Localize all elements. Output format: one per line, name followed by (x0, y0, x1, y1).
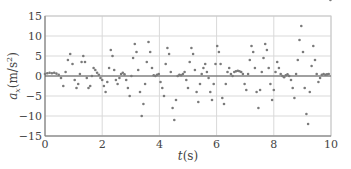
data-point (259, 89, 262, 92)
data-point (64, 71, 67, 74)
data-point (309, 91, 312, 94)
data-point (307, 123, 310, 126)
data-point (82, 55, 85, 58)
data-point (77, 83, 80, 86)
data-point (249, 59, 252, 62)
data-point (173, 119, 176, 122)
data-point (231, 75, 234, 78)
data-point (245, 89, 248, 92)
data-point (267, 67, 270, 70)
data-point (171, 107, 174, 110)
data-point (116, 83, 119, 86)
data-point (140, 115, 143, 118)
data-point (327, 73, 330, 76)
data-point (111, 55, 114, 58)
data-point (86, 77, 89, 80)
data-point (130, 75, 133, 78)
data-point (274, 71, 277, 74)
data-point (310, 65, 313, 68)
data-point (146, 61, 149, 64)
data-point (108, 67, 111, 70)
data-point (291, 87, 294, 90)
data-point (190, 47, 193, 50)
data-point (214, 63, 217, 66)
data-point (195, 91, 198, 94)
data-point (110, 49, 113, 52)
data-point (262, 57, 265, 60)
data-point (221, 97, 224, 100)
x-tick-label: 2 (99, 138, 106, 151)
x-tick-label: 0 (42, 138, 49, 151)
data-point (164, 63, 167, 66)
data-point (87, 87, 90, 90)
data-point (104, 91, 107, 94)
data-point (170, 71, 173, 74)
data-point (103, 85, 106, 88)
data-point (225, 83, 228, 86)
y-axis-label: ax(m/s2) (5, 52, 22, 100)
data-point (182, 73, 185, 76)
data-point (188, 61, 191, 64)
data-point (269, 83, 272, 86)
data-point (67, 59, 70, 62)
data-point (247, 73, 250, 76)
data-point (69, 53, 72, 56)
data-point (194, 69, 197, 72)
y-tick-label: 5 (35, 50, 42, 63)
data-point (278, 67, 281, 70)
data-point (113, 69, 116, 72)
data-point (46, 72, 49, 75)
data-point (297, 59, 300, 62)
data-point (317, 81, 320, 84)
data-point (144, 83, 147, 86)
data-point (166, 47, 169, 50)
data-point (89, 85, 92, 88)
data-point (187, 87, 190, 90)
data-point (163, 95, 166, 98)
data-point (128, 95, 131, 98)
data-point (303, 87, 306, 90)
data-point (183, 71, 186, 74)
data-point (84, 61, 87, 64)
data-point (279, 73, 282, 76)
data-point (199, 83, 202, 86)
y-tick-labels: 151050−5−10−15 (19, 10, 42, 143)
data-point (200, 73, 203, 76)
x-tick-label: 4 (156, 138, 163, 151)
data-point (228, 67, 231, 70)
data-point (55, 72, 58, 75)
data-point (158, 73, 161, 76)
data-point (51, 72, 54, 75)
data-point (319, 77, 322, 80)
data-point (125, 79, 128, 82)
data-point (75, 87, 78, 90)
data-point (218, 51, 221, 54)
data-point (185, 79, 188, 82)
data-point (209, 91, 212, 94)
data-point (204, 63, 207, 66)
data-point (60, 77, 63, 80)
x-axis-label: t(s) (178, 149, 198, 163)
data-point (276, 61, 279, 64)
data-point (91, 75, 94, 78)
y-tick-label: −10 (19, 110, 42, 123)
data-point (71, 63, 74, 66)
data-point (118, 77, 121, 80)
data-point (44, 73, 47, 76)
data-point (257, 107, 260, 110)
data-point (314, 59, 317, 62)
data-point (206, 71, 209, 74)
data-point (266, 49, 269, 52)
y-tick-label: 15 (28, 10, 42, 23)
data-point (115, 79, 118, 82)
data-point (250, 45, 253, 48)
data-point (127, 87, 130, 90)
data-point (57, 74, 60, 77)
data-point (161, 87, 164, 90)
data-point (94, 69, 97, 72)
data-point (192, 53, 195, 56)
data-point (300, 25, 303, 28)
y-tick-label: 10 (28, 30, 42, 43)
data-point (151, 67, 154, 70)
data-point (98, 74, 101, 77)
